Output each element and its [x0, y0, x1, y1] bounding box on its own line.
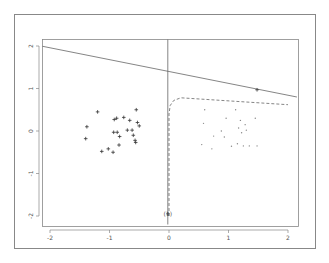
- data-points: [84, 88, 259, 216]
- y-tick-label: -2: [27, 213, 34, 219]
- solid-boundary-line: [41, 46, 297, 97]
- dot-marker: [237, 143, 238, 144]
- boundary-lines: [41, 38, 297, 225]
- plus-marker: [112, 130, 116, 134]
- plus-marker: [118, 135, 122, 139]
- dot-marker: [204, 109, 205, 110]
- plus-marker: [84, 137, 88, 141]
- x-axis: -2-1012: [47, 230, 290, 241]
- plot-area: [43, 40, 299, 227]
- plus-marker: [117, 143, 121, 147]
- dot-marker: [224, 136, 225, 137]
- plus-marker: [132, 133, 136, 137]
- y-axis: -2-1012: [27, 44, 39, 219]
- x-tick-label: 1: [227, 234, 231, 241]
- dot-marker: [243, 145, 244, 146]
- x-tick-label: -2: [47, 234, 53, 241]
- annotations: (1): [164, 210, 173, 217]
- dot-marker: [255, 118, 256, 119]
- dot-marker: [241, 132, 242, 133]
- plus-marker: [100, 150, 104, 154]
- dot-marker: [240, 120, 241, 121]
- dot-marker: [249, 145, 250, 146]
- plus-marker: [134, 141, 138, 145]
- dashed-boundary-line: [169, 98, 288, 216]
- plus-marker: [115, 130, 119, 134]
- dot-marker: [213, 135, 214, 136]
- y-tick-label: -1: [27, 170, 34, 176]
- dot-marker: [211, 148, 212, 149]
- plus-marker: [111, 150, 115, 154]
- plus-marker: [128, 119, 132, 123]
- dot-marker: [238, 127, 239, 128]
- plus-marker: [137, 124, 141, 128]
- dot-marker: [203, 123, 204, 124]
- y-tick-label: 2: [27, 44, 34, 48]
- dot-marker: [256, 145, 257, 146]
- dot-marker: [235, 109, 236, 110]
- dot-marker: [221, 130, 222, 131]
- plus-marker: [96, 110, 100, 114]
- plus-marker: [126, 128, 130, 132]
- plus-marker: [134, 108, 138, 112]
- x-tick-label: -1: [107, 234, 113, 241]
- dot-marker: [231, 146, 232, 147]
- plus-marker: [133, 139, 137, 143]
- plus-marker: [122, 116, 126, 120]
- plus-marker: [107, 147, 111, 151]
- x-tick-label: 0: [167, 234, 171, 241]
- dot-marker: [246, 129, 247, 130]
- plus-marker: [130, 128, 134, 132]
- annotation-label: (1): [164, 210, 173, 217]
- chart: -2-1012 -2-1012 (1): [0, 0, 329, 263]
- x-tick-label: 2: [286, 234, 290, 241]
- plus-marker: [85, 125, 89, 129]
- dot-marker: [244, 124, 245, 125]
- y-tick-label: 1: [27, 86, 34, 90]
- dot-marker: [225, 118, 226, 119]
- dot-marker: [201, 144, 202, 145]
- y-tick-label: 0: [27, 129, 34, 133]
- plus-marker: [136, 121, 140, 125]
